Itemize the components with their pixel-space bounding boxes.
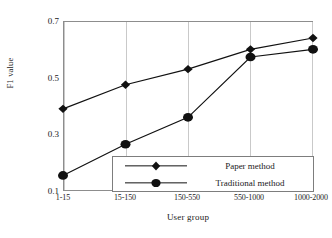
circle-marker-icon (149, 176, 163, 190)
x-axis-title: User group (63, 212, 313, 222)
series-line-paper-method (63, 38, 313, 109)
legend-key-traditional-method (113, 174, 199, 192)
data-point (308, 34, 317, 42)
data-point (121, 81, 130, 89)
series-markers-paper-method (58, 34, 317, 113)
chart-legend: Paper method Traditional method (112, 156, 314, 192)
legend-key-paper-method (113, 157, 199, 175)
data-point (58, 171, 68, 180)
data-point (121, 140, 131, 149)
data-point (183, 65, 192, 73)
data-point (183, 113, 193, 122)
diamond-marker-icon (149, 159, 163, 173)
legend-item-paper-method[interactable]: Paper method (113, 157, 313, 175)
data-point (308, 45, 318, 54)
data-point (246, 53, 256, 62)
data-point (58, 105, 67, 113)
legend-item-traditional-method[interactable]: Traditional method (113, 174, 313, 192)
legend-label: Traditional method (199, 178, 313, 188)
data-point (246, 45, 255, 53)
series-layer (0, 0, 332, 238)
chart-container: F1 value 0.7 0.5 0.3 0.1 1-15 15-150 150… (0, 0, 332, 238)
legend-label: Paper method (199, 161, 313, 171)
